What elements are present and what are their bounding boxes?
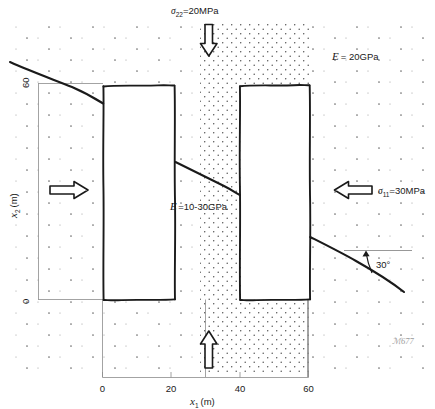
- y-tick-label-60: 60: [20, 77, 31, 88]
- stress-top-value: =20MPa: [183, 5, 219, 16]
- svg-text:E=10-30GPa: E=10-30GPa: [169, 200, 228, 212]
- svg-text:E= 20GPa: E= 20GPa: [331, 50, 379, 62]
- x-tick-label-20: 20: [166, 383, 177, 394]
- svg-text:σ22=20MPa: σ22=20MPa: [171, 5, 219, 18]
- svg-text:x2(m): x2(m): [7, 193, 21, 219]
- y-axis-title: x2(m): [7, 193, 21, 219]
- x-tick-labels: 0 20 40 60: [100, 383, 314, 394]
- modulus-band-value: =10-30GPa: [178, 201, 228, 212]
- modulus-band-symbol: E: [169, 200, 177, 212]
- right-opening: [240, 85, 311, 300]
- x-tick-label-0: 0: [100, 383, 105, 394]
- modulus-outer-value: = 20GPa: [341, 51, 379, 62]
- stress-top-label: σ22=20MPa: [171, 5, 219, 18]
- x-axis-unit: (m): [201, 396, 215, 407]
- x-axis-subscript: 1: [195, 402, 199, 409]
- svg-text:60: 60: [20, 77, 31, 88]
- left-opening: [103, 85, 175, 300]
- figure-canvas: 30° σ22=20MPa σ11=30MPa E= 20GPa E=10-30…: [0, 0, 435, 409]
- modulus-outer-label: E= 20GPa: [331, 50, 379, 62]
- x-axis-title: x1(m): [189, 395, 215, 409]
- y-axis-subscript: 2: [14, 209, 21, 213]
- stress-right-value: =30MPa: [389, 185, 425, 196]
- svg-text:x1(m): x1(m): [189, 395, 215, 409]
- angle-label: 30°: [376, 259, 391, 270]
- cross-section-svg: 30° σ22=20MPa σ11=30MPa E= 20GPa E=10-30…: [0, 0, 435, 409]
- y-axis-unit: (m): [8, 193, 19, 207]
- modulus-outer-symbol: E: [331, 50, 339, 62]
- modulus-band-label: E=10-30GPa: [169, 200, 228, 212]
- svg-text:0: 0: [20, 299, 31, 304]
- x-tick-label-40: 40: [235, 383, 246, 394]
- watermark-label: ℳ677: [392, 336, 415, 346]
- x-tick-label-60: 60: [303, 383, 314, 394]
- y-tick-label-0: 0: [20, 299, 31, 304]
